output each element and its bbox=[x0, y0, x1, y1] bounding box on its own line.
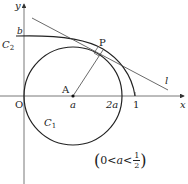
point-a-label: A bbox=[61, 84, 70, 95]
point-a-dot bbox=[71, 94, 74, 97]
c2-label: C2 bbox=[2, 39, 14, 52]
one-tick-label: 1 bbox=[133, 99, 139, 110]
condition-close-paren: ) bbox=[140, 153, 146, 169]
fraction-denominator: 2 bbox=[134, 161, 139, 170]
c1-label: C1 bbox=[44, 117, 56, 130]
condition-fraction: 1 2 bbox=[133, 151, 140, 170]
origin-label: O bbox=[15, 99, 23, 110]
condition-lhs: 0< bbox=[100, 154, 116, 167]
b-label: b bbox=[17, 26, 23, 36]
a-tick-label: a bbox=[70, 99, 76, 110]
two-a-tick-label: 2a bbox=[105, 99, 118, 110]
line-l-label: l bbox=[165, 75, 168, 86]
y-axis-label: y bbox=[14, 0, 21, 11]
point-p-label: P bbox=[99, 37, 106, 48]
condition-lt: < bbox=[123, 154, 132, 167]
fraction-numerator: 1 bbox=[133, 151, 140, 161]
x-axis-label: x bbox=[180, 99, 186, 110]
condition-label: ( 0< a < 1 2 ) bbox=[94, 151, 147, 170]
radius-ap bbox=[73, 50, 103, 96]
